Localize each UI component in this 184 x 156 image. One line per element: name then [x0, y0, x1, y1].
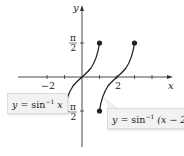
- svg-text:π: π: [70, 33, 76, 43]
- curve2-label-eq: = sin: [117, 114, 145, 125]
- endpoint-curve1-end: [97, 40, 102, 45]
- svg-text:2: 2: [71, 112, 77, 122]
- curve2-label-sup: −1: [145, 113, 154, 120]
- y-axis-label: y: [72, 2, 79, 13]
- x-axis-label: x: [168, 80, 174, 91]
- curve1-label: y = sin−1 x: [7, 93, 68, 114]
- graph: x y −2 2 π 2 − π 2: [0, 0, 184, 156]
- endpoint-curve2-end: [132, 40, 137, 45]
- curve2-label: y = sin−1 (x − 2): [107, 108, 184, 129]
- curve1-label-sup: −1: [45, 98, 54, 105]
- x-axis-arrow-icon: [167, 75, 173, 79]
- svg-text:2: 2: [71, 43, 77, 53]
- x-tick-label-minus2: −2: [41, 80, 55, 91]
- x-tick-label-2: 2: [115, 80, 121, 91]
- curve1-label-eq: = sin: [17, 99, 45, 110]
- curve2-label-arg: (x − 2): [154, 114, 184, 125]
- svg-text:π: π: [70, 102, 76, 112]
- y-tick-label-pi-over-2: π 2: [69, 33, 77, 53]
- curve1-label-arg: x: [54, 99, 62, 110]
- endpoint-curve2-start: [97, 108, 102, 113]
- y-axis-arrow-icon: [80, 5, 84, 11]
